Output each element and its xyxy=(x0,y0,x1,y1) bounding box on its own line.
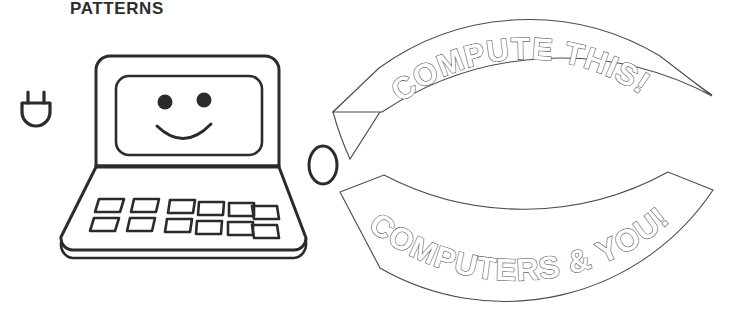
keyboard-key xyxy=(165,219,192,232)
artwork-svg: COMPUTE THIS! COMPUTERS & YOU! xyxy=(0,0,756,320)
smiley-right-eye xyxy=(197,93,212,108)
computer-mouse-icon xyxy=(309,146,337,184)
keyboard-key xyxy=(127,218,155,231)
keyboard-key xyxy=(198,202,224,215)
keyboard-key xyxy=(252,206,279,219)
laptop-keyboard xyxy=(90,199,279,238)
keyboard-key xyxy=(252,225,279,238)
keyboard-key xyxy=(228,222,253,235)
keyboard-key xyxy=(229,203,254,216)
banner-top: COMPUTE THIS! xyxy=(333,20,712,159)
keyboard-key xyxy=(95,199,124,212)
keyboard-key xyxy=(196,221,222,234)
keyboard-key xyxy=(131,199,159,212)
coloring-page-canvas: PATTERNS xyxy=(0,0,756,320)
smiley-mouth xyxy=(157,124,211,139)
keyboard-key xyxy=(90,218,119,231)
banner-bottom: COMPUTERS & YOU! xyxy=(340,172,713,301)
laptop-screen xyxy=(116,76,262,155)
laptop-icon xyxy=(61,56,306,258)
power-plug-icon xyxy=(22,92,50,126)
keyboard-key xyxy=(168,200,195,213)
smiley-left-eye xyxy=(158,95,173,110)
artwork-layer: COMPUTE THIS! COMPUTERS & YOU! xyxy=(0,0,756,320)
